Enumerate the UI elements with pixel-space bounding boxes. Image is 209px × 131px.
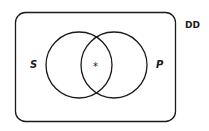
intersection-asterisk: * bbox=[93, 61, 98, 72]
venn-diagram: DD S P * bbox=[0, 0, 209, 131]
universe-label: DD bbox=[185, 20, 200, 30]
set-s-label: S bbox=[30, 59, 37, 70]
set-s-circle bbox=[46, 32, 112, 98]
set-p-label: P bbox=[156, 59, 164, 70]
set-p-circle bbox=[81, 32, 147, 98]
